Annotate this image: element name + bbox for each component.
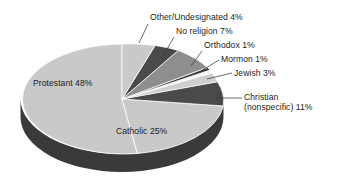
pie-label-christian-nonspecific-line1: Christian: [244, 92, 336, 102]
pie-label-other-undesignated: Other/Undesignated 4%: [150, 12, 243, 22]
leader-line-other-undesignated: [139, 24, 148, 43]
pie-label-catholic: Catholic 25%: [116, 126, 167, 136]
pie-label-no-religion: No religion 7%: [176, 26, 233, 36]
pie-label-jewish: Jewish 3%: [234, 68, 276, 78]
pie-label-christian-nonspecific-line2: (nonspecific) 11%: [244, 102, 336, 112]
pie-slices: [22, 44, 223, 154]
pie-label-orthodox: Orthodox 1%: [204, 40, 255, 50]
pie-chart: Other/Undesignated 4% No religion 7% Ort…: [0, 0, 340, 185]
pie-label-christian-nonspecific: Christian (nonspecific) 11%: [244, 92, 336, 112]
pie-label-mormon: Mormon 1%: [221, 54, 268, 64]
pie-label-protestant: Protestant 48%: [33, 78, 92, 88]
